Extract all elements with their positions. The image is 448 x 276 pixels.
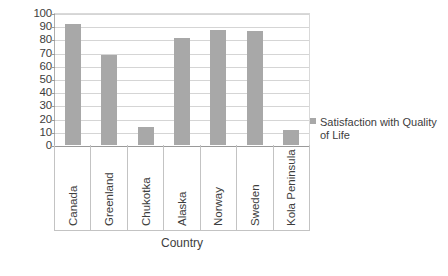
bar: [174, 38, 190, 145]
x-axis-category-cell: Canada: [55, 145, 91, 230]
legend-label-line2: of Life: [320, 129, 440, 142]
legend-label-line1: Satisfaction with Quality: [320, 116, 440, 129]
x-axis-category-label: Sweden: [249, 184, 261, 226]
y-axis-tick-70: 70: [40, 47, 52, 58]
x-axis-category-label: Norway: [212, 187, 224, 226]
x-axis-category-cell: Sweden: [237, 145, 273, 230]
legend-label: Satisfaction with Quality of Life: [320, 116, 440, 142]
x-axis-category-label: Alaska: [176, 191, 188, 226]
bar-slot: [273, 14, 309, 145]
bar: [283, 130, 299, 145]
bar: [247, 31, 263, 145]
y-axis-tick-20: 20: [40, 113, 52, 124]
chart-legend: Satisfaction with Quality of Life: [310, 116, 444, 142]
bar: [210, 30, 226, 145]
bar-chart: 1009080706050403020100 CanadaGreenlandCh…: [0, 0, 448, 276]
x-axis-title: Country: [54, 236, 310, 250]
x-axis-category-labels: CanadaGreenlandChukotkaAlaskaNorwaySwede…: [54, 145, 310, 231]
y-axis-tick-60: 60: [40, 60, 52, 71]
x-axis-category-cell: Alaska: [164, 145, 200, 230]
bar-slot: [164, 14, 200, 145]
y-axis-tick-labels: 1009080706050403020100: [12, 13, 52, 145]
x-axis-category-label: Chukotka: [140, 177, 152, 226]
y-axis-tick-100: 100: [33, 8, 52, 19]
bar-slot: [200, 14, 236, 145]
y-axis-tick-10: 10: [40, 126, 52, 137]
x-axis-category-cell: Greenland: [91, 145, 127, 230]
y-axis-tick-80: 80: [40, 34, 52, 45]
bar: [101, 55, 117, 145]
x-axis-category-label: Kola Peninsula: [285, 149, 297, 226]
x-axis-category-cell: Norway: [201, 145, 237, 230]
y-axis-tick-0: 0: [46, 140, 52, 151]
x-axis-category-label: Canada: [67, 186, 79, 226]
bar: [138, 127, 154, 145]
y-axis-tick-50: 50: [40, 74, 52, 85]
bar-slot: [55, 14, 91, 145]
bar-slot: [236, 14, 272, 145]
legend-swatch-icon: [310, 118, 316, 124]
y-axis-tick-30: 30: [40, 100, 52, 111]
bar-slot: [91, 14, 127, 145]
x-axis-category-cell: Kola Peninsula: [274, 145, 310, 230]
y-axis-tick-90: 90: [40, 21, 52, 32]
plot-area: [54, 13, 310, 145]
y-axis-tick-40: 40: [40, 87, 52, 98]
x-axis-category-label: Greenland: [103, 172, 115, 226]
bar-slot: [128, 14, 164, 145]
x-axis-category-cell: Chukotka: [128, 145, 164, 230]
bar: [65, 24, 81, 145]
bar-series: [55, 14, 309, 145]
